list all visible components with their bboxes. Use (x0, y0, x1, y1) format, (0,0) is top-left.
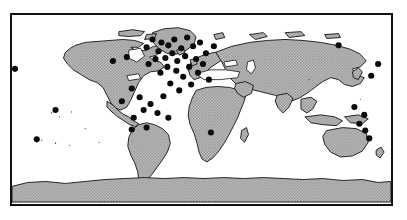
site-point (119, 98, 125, 104)
site-point (186, 64, 192, 70)
site-point (188, 81, 194, 87)
site-point (144, 125, 150, 131)
site-point (184, 34, 190, 40)
site-point (144, 44, 150, 50)
site-point (193, 56, 199, 62)
site-point (368, 73, 374, 79)
site-point (169, 50, 175, 56)
site-point (164, 64, 170, 70)
site-point (167, 81, 173, 87)
world-map-figure (0, 0, 407, 220)
site-point (356, 121, 362, 127)
site-point (178, 45, 184, 51)
site-point (165, 42, 171, 48)
site-point (366, 135, 372, 141)
site-point (157, 70, 163, 76)
site-point (173, 68, 179, 74)
site-point (361, 112, 367, 118)
site-point (190, 43, 196, 49)
site-point (206, 77, 212, 83)
site-point (52, 107, 58, 113)
site-point (162, 55, 168, 61)
site-point (203, 50, 209, 56)
site-point (208, 129, 214, 135)
site-point (158, 39, 164, 45)
site-point (160, 93, 166, 99)
site-point (200, 61, 206, 67)
site-point (195, 70, 201, 76)
world-map-canvas (12, 15, 391, 204)
site-point (351, 104, 357, 110)
site-point (124, 54, 130, 60)
site-point (182, 53, 188, 59)
site-point (129, 127, 135, 133)
site-point (129, 85, 135, 91)
site-point (131, 115, 137, 121)
site-point (137, 94, 143, 100)
site-point (154, 110, 160, 116)
site-point (149, 36, 155, 42)
site-point (180, 74, 186, 80)
site-point (211, 43, 217, 49)
site-point (34, 136, 40, 142)
map-border (10, 13, 393, 206)
site-point (362, 128, 368, 134)
land-polar-isle-4 (325, 34, 341, 39)
site-point (375, 61, 381, 67)
site-point (147, 101, 153, 107)
land-arctic-islands (119, 30, 145, 37)
site-point (335, 42, 341, 48)
site-point (165, 115, 171, 121)
site-point (141, 107, 147, 113)
site-point (171, 36, 177, 42)
site-point (174, 58, 180, 64)
site-point (176, 87, 182, 93)
site-point (155, 48, 161, 54)
site-point (145, 61, 151, 67)
site-point (110, 58, 116, 64)
site-point (12, 66, 18, 72)
site-point (152, 56, 158, 62)
site-point (197, 39, 203, 45)
